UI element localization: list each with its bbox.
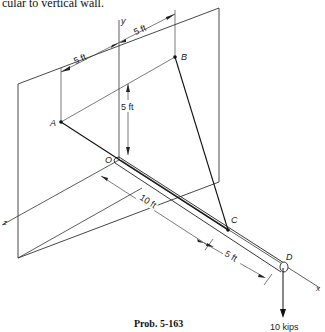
point-b: [173, 55, 177, 59]
load-label: 10 kips: [270, 322, 299, 332]
statics-diagram: cular to vertical wall. 5 ft 5 ft y 5 ft…: [0, 0, 325, 332]
problem-caption: Prob. 5-163: [134, 318, 183, 329]
arrowhead: [258, 274, 266, 278]
label-x: x: [315, 284, 321, 293]
label-b: B: [181, 52, 187, 62]
point-a: [59, 120, 63, 124]
arrowhead: [126, 147, 130, 155]
rod-bottom-edge: [115, 163, 281, 272]
dim-vertical: 5 ft: [121, 102, 134, 112]
label-o: O: [105, 155, 112, 165]
rod-end-d: [280, 262, 288, 272]
load-arrowhead: [280, 309, 286, 318]
header-text: cular to vertical wall.: [2, 0, 104, 10]
dim-a-to-y: 5 ft: [72, 52, 88, 67]
arrowhead: [101, 176, 108, 181]
cable-bc: [175, 57, 228, 230]
label-a: A: [49, 118, 56, 128]
cable-ac: [61, 122, 228, 230]
label-c: C: [231, 215, 238, 225]
wall-base-line: [18, 188, 142, 258]
rod-inner-line: [121, 160, 228, 229]
dim-y-to-b: 5 ft: [132, 23, 148, 38]
vertical-wall: [18, 8, 219, 258]
label-d: D: [286, 252, 293, 262]
label-z: z: [2, 218, 7, 227]
a-b-level-line: [61, 57, 175, 122]
arrowhead: [166, 14, 175, 20]
arrowhead: [126, 84, 130, 92]
point-c: [226, 228, 230, 232]
label-y: y: [120, 16, 126, 26]
z-axis-line: [2, 160, 119, 225]
